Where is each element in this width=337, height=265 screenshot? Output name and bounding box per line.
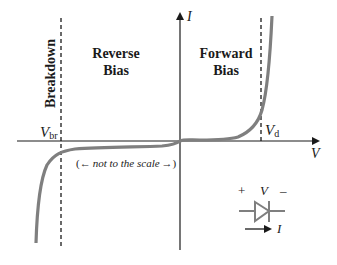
forward-bias-label-line2: Bias	[213, 63, 239, 78]
y-axis-label: I	[186, 9, 193, 24]
breakdown-label: Breakdown	[43, 39, 58, 108]
forward-bias-label-line1: Forward	[200, 46, 253, 61]
not-to-scale-annotation: (←not to the scale→)	[76, 157, 177, 170]
diode-voltage-label: V	[260, 183, 270, 198]
reverse-bias-label-line1: Reverse	[92, 46, 139, 61]
x-axis-label: V	[311, 146, 321, 161]
diode-iv-diagram: Breakdown Reverse Bias Forward Bias I V …	[0, 0, 337, 265]
diode-symbol: + V – I	[238, 183, 287, 236]
reverse-bias-label-line2: Bias	[103, 63, 129, 78]
diode-current-label: I	[276, 221, 282, 236]
diode-triangle-icon	[255, 202, 269, 221]
v-breakdown-label: Vbr	[40, 124, 58, 141]
diode-plus-sign: +	[238, 183, 245, 198]
v-diode-label: Vd	[265, 122, 279, 139]
diode-minus-sign: –	[279, 183, 287, 198]
